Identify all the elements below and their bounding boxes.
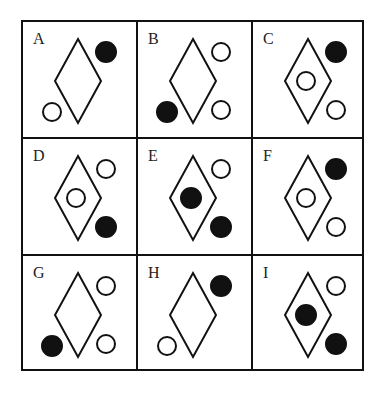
cell-c[interactable]: C [253,22,364,137]
white-circle-upper-right [97,160,115,178]
diamond-figure [253,22,364,137]
white-circle-lower-right [212,101,230,119]
cell-f[interactable]: F [253,139,364,254]
black-circle-inner [296,305,316,325]
cell-i[interactable]: I [253,256,364,369]
diamond-figure [253,139,364,254]
cell-h[interactable]: H [138,256,251,369]
diamond-figure [253,256,364,369]
cell-d[interactable]: D [23,139,136,254]
white-circle-lower-right [327,218,345,236]
white-circle-lower-left [158,337,176,355]
black-circle-lower-left [157,102,177,122]
white-circle-lower-right [327,101,345,119]
cell-e[interactable]: E [138,139,251,254]
cell-a[interactable]: A [23,22,136,137]
puzzle-grid: A B C D E F G H I [21,20,364,371]
diamond-figure [138,139,251,254]
white-circle-upper-right [212,43,230,61]
diamond-shape [170,273,216,357]
cell-b[interactable]: B [138,22,251,137]
white-circle-upper-right [212,160,230,178]
white-circle-inner [67,189,85,207]
black-circle-inner [181,188,201,208]
diamond-figure [23,22,136,137]
white-circle-upper-right [327,277,345,295]
black-circle-upper-right [326,42,346,62]
black-circle-upper-right [211,276,231,296]
white-circle-upper-right [97,277,115,295]
black-circle-lower-right [326,334,346,354]
diamond-figure [23,256,136,369]
diamond-figure [23,139,136,254]
diamond-figure [138,256,251,369]
black-circle-upper-right [326,159,346,179]
black-circle-lower-right [96,217,116,237]
cell-g[interactable]: G [23,256,136,369]
black-circle-lower-left [42,336,62,356]
diamond-shape [55,39,101,123]
white-circle-lower-right [97,335,115,353]
white-circle-inner [297,72,315,90]
white-circle-lower-left [43,103,61,121]
black-circle-upper-right [96,42,116,62]
diamond-figure [138,22,251,137]
black-circle-lower-right [211,217,231,237]
white-circle-inner [297,189,315,207]
